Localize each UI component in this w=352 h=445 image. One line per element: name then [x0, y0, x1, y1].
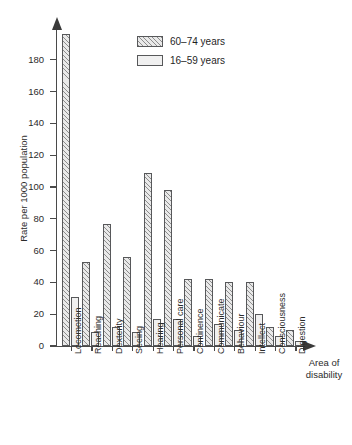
y-tick-100	[50, 186, 56, 187]
bar-older-dexterity	[103, 224, 111, 346]
x-tick-4	[153, 346, 154, 351]
legend: 60–74 years 16–59 years	[137, 34, 225, 72]
x-axis-label-dexterity: Dexterity	[115, 318, 124, 354]
bar-older-continence	[184, 279, 192, 346]
x-axis-title-line-1: Area of	[298, 357, 350, 369]
legend-label-younger: 16–59 years	[170, 56, 225, 66]
bar-older-personal-care	[164, 190, 172, 346]
x-tick-0	[71, 346, 72, 351]
y-tick-140	[50, 123, 56, 124]
x-axis-label-behaviour: Behaviour	[237, 313, 246, 354]
bar-older-intellect	[246, 282, 254, 346]
x-axis-title-line-2: disability	[298, 369, 350, 381]
y-tick-160	[50, 91, 56, 92]
y-tick-label-160: 160	[0, 87, 44, 97]
legend-item-younger: 16–59 years	[137, 53, 225, 68]
x-tick-5	[173, 346, 174, 351]
y-axis-title: Rate per 1000 population	[18, 114, 29, 264]
y-tick-180	[50, 59, 56, 60]
bar-older-digestion	[286, 330, 294, 346]
bar-older-reaching	[82, 262, 90, 346]
bar-older-locomotion	[62, 34, 70, 346]
y-tick-label-0: 0	[0, 341, 44, 351]
legend-swatch-plain-icon	[137, 55, 163, 66]
x-axis-label-continence: Continence	[196, 308, 205, 354]
y-tick-60	[50, 250, 56, 251]
x-axis-label-communicate: Communicate	[217, 298, 226, 354]
y-tick-label-180: 180	[0, 55, 44, 65]
x-axis-label-consciousness: Consciousness	[278, 293, 287, 354]
legend-label-older: 60–74 years	[170, 37, 225, 47]
x-axis-label-digestion: Digestion	[298, 316, 307, 354]
bar-older-hearing	[144, 173, 152, 346]
x-axis-label-personal-care: Personal care	[176, 298, 185, 354]
y-tick-label-40: 40	[0, 277, 44, 287]
y-tick-0	[50, 345, 56, 346]
bar-older-consciousness	[266, 327, 274, 346]
y-tick-40	[50, 282, 56, 283]
x-tick-10	[275, 346, 276, 351]
x-axis-label-reaching: Reaching	[94, 316, 103, 354]
x-axis-label-intellect: Intellect	[258, 323, 267, 354]
x-tick-7	[214, 346, 215, 351]
bar-older-seeing	[123, 257, 131, 346]
y-tick-20	[50, 314, 56, 315]
y-tick-80	[50, 218, 56, 219]
bar-older-communicate	[205, 279, 213, 346]
legend-swatch-hatched-icon	[137, 36, 163, 47]
bar-older-behaviour	[225, 282, 233, 346]
x-axis-label-hearing: Hearing	[156, 322, 165, 354]
disability-rate-bar-chart: 020406080100120140160180 Rate per 1000 p…	[0, 0, 352, 445]
legend-item-older: 60–74 years	[137, 34, 225, 49]
x-axis-title: Area of disability	[298, 357, 350, 380]
x-tick-2	[112, 346, 113, 351]
x-tick-9	[255, 346, 256, 351]
x-axis-label-locomotion: Locomotion	[74, 307, 83, 354]
x-axis-label-seeing: Seeing	[135, 326, 144, 354]
y-tick-label-20: 20	[0, 309, 44, 319]
y-tick-120	[50, 155, 56, 156]
